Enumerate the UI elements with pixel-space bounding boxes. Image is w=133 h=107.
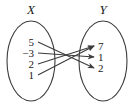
- codomain-element-2: 2: [98, 62, 104, 74]
- arrow-1-to-7: [38, 46, 94, 75]
- arrow-2-to-7: [38, 46, 94, 64]
- set-label-x: X: [26, 2, 36, 17]
- set-label-y: Y: [99, 2, 108, 17]
- mapping-diagram-figure: X Y 5 −3 2 1 7 1 2: [0, 0, 133, 107]
- domain-element-3: 1: [29, 69, 35, 81]
- mapping-diagram-svg: X Y 5 −3 2 1 7 1 2: [0, 0, 133, 107]
